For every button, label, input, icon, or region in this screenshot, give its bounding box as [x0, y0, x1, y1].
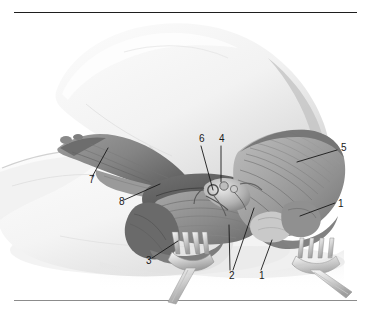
- callout-label-4: 4: [219, 134, 225, 144]
- callout-label-6: 6: [199, 134, 205, 144]
- callout-label-8: 8: [119, 197, 125, 207]
- callout-label-2: 2: [229, 271, 235, 281]
- callout-label-5: 5: [341, 143, 347, 153]
- anatomical-illustration: [0, 0, 371, 310]
- callout-label-3: 3: [146, 256, 152, 266]
- callout-label-7: 7: [89, 175, 95, 185]
- callout-label-1-right: 1: [338, 199, 344, 209]
- callout-label-1-bottom: 1: [259, 271, 265, 281]
- figure-page: 1 1 2 3 4 5 6 7 8: [0, 0, 371, 310]
